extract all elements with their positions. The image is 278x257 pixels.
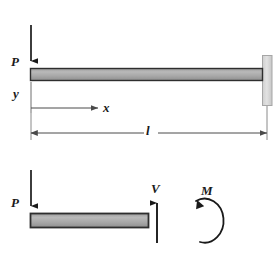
y-axis-label: y — [13, 87, 19, 100]
lower-beam-segment — [31, 214, 149, 228]
upper-beam — [31, 69, 263, 81]
figure-vector-layer — [0, 0, 278, 257]
upper-load-label-P: P — [11, 55, 19, 68]
shear-force-label-V: V — [151, 182, 160, 195]
x-dimension-label: x — [103, 101, 110, 114]
bending-moment-label-M: M — [201, 184, 213, 197]
length-dimension-label: l — [146, 124, 150, 137]
fixed-support-wall — [263, 56, 273, 106]
beam-free-body-figure: P y x l P V M — [0, 0, 278, 257]
lower-load-label-P: P — [11, 196, 19, 209]
bending-moment-arc-M — [196, 199, 224, 243]
